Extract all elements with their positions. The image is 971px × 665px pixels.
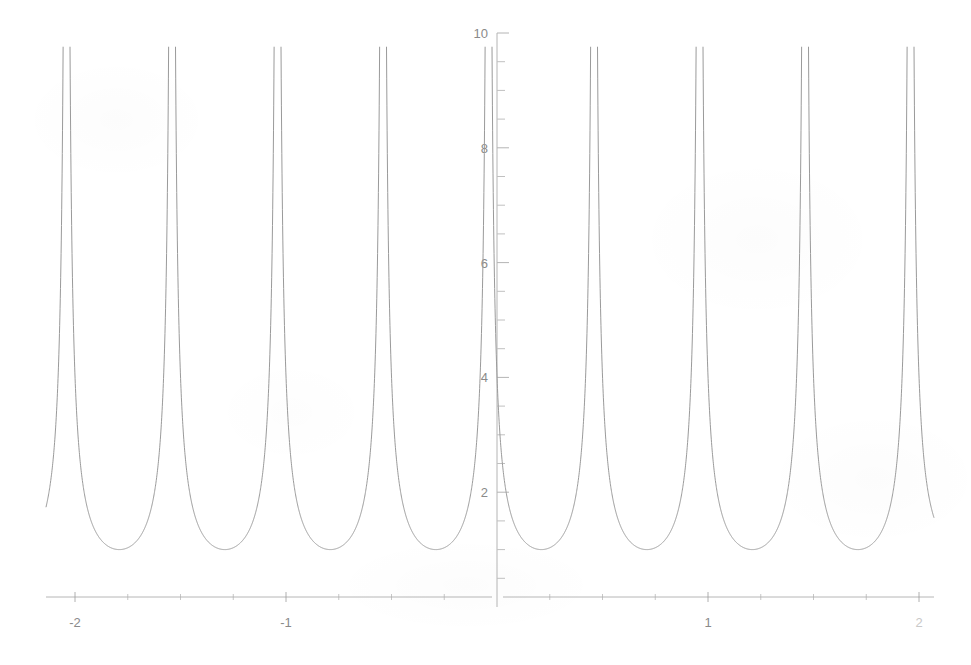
curve-branch (914, 47, 934, 517)
y-tick-label: 6 (481, 256, 488, 271)
curve-branch (492, 47, 591, 549)
curve-branch (598, 47, 697, 549)
plot-canvas: -2-112 246810 (0, 0, 971, 665)
curve-branch (70, 47, 169, 549)
y-tick-label: 10 (474, 26, 488, 41)
curve-branch (703, 47, 802, 549)
plot-page: -2-112 246810 (0, 0, 971, 665)
y-tick-label: 2 (481, 485, 488, 500)
curve-branch (281, 47, 380, 549)
x-tick-label: 2 (915, 615, 922, 630)
x-tick-label: 1 (704, 615, 711, 630)
curve-series-group (46, 47, 934, 549)
y-tick-label: 4 (481, 370, 488, 385)
x-tick-label: -1 (280, 615, 292, 630)
curve-branch (387, 47, 486, 549)
curve-branch (809, 47, 908, 549)
curve-branch (46, 47, 63, 507)
x-tick-label: -2 (69, 615, 81, 630)
y-axis-tick-labels: 246810 (474, 26, 488, 500)
curve-branch (176, 47, 275, 549)
x-axis-tick-labels: -2-112 (69, 615, 922, 630)
